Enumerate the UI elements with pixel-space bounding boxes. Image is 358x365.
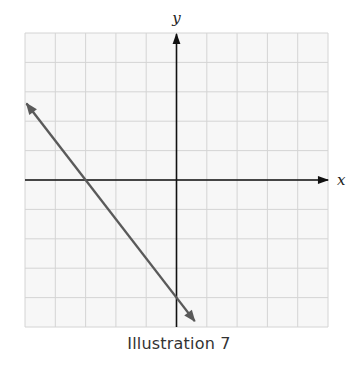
y-axis-label: y bbox=[171, 9, 181, 27]
coordinate-plane: x y bbox=[0, 0, 358, 365]
x-axis-label: x bbox=[337, 171, 346, 189]
illustration-caption: Illustration 7 bbox=[0, 334, 358, 353]
